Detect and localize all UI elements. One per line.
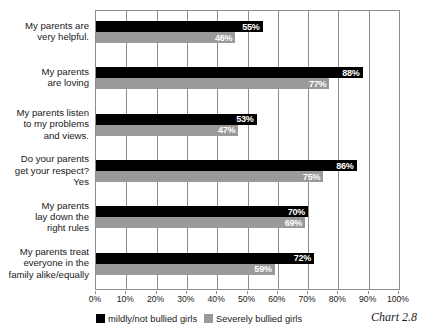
x-axis-tick-label: 10% xyxy=(117,294,134,304)
legend-swatch-icon xyxy=(96,314,105,323)
bar-severely-bullied: 46% xyxy=(96,32,235,43)
category-label: My parents treat everyone in the family … xyxy=(0,246,89,280)
legend-label: Severely bullied girls xyxy=(216,313,302,324)
x-axis-tick-label: 60% xyxy=(268,294,285,304)
bar-value-label: 59% xyxy=(254,265,271,274)
legend-item-mildly-not-bullied-girls: mildly/not bullied girls xyxy=(96,313,197,324)
bar-severely-bullied: 75% xyxy=(96,171,323,182)
legend-label: mildly/not bullied girls xyxy=(108,313,197,324)
category-label: My parents lay down the right rules xyxy=(0,200,89,234)
bar-mildly-not-bullied: 53% xyxy=(96,114,257,125)
plot-area: 55%46%88%77%53%47%86%75%70%69%72%59% xyxy=(95,10,400,290)
category-label: Do your parents get your respect? Yes xyxy=(0,153,89,187)
bar-severely-bullied: 47% xyxy=(96,125,238,136)
bar-row: 70%69% xyxy=(96,196,399,242)
chart-container: My parents are very helpful. My parents … xyxy=(0,0,425,331)
x-axis-tick-label: 50% xyxy=(238,294,255,304)
bar-mildly-not-bullied: 70% xyxy=(96,206,308,217)
x-axis-tick-label: 30% xyxy=(177,294,194,304)
bar-value-label: 86% xyxy=(336,161,353,170)
bar-value-label: 88% xyxy=(342,68,359,77)
bar-row: 72%59% xyxy=(96,243,399,289)
bar-value-label: 70% xyxy=(288,207,305,216)
bar-value-label: 47% xyxy=(218,126,235,135)
bar-value-label: 77% xyxy=(309,79,326,88)
bar-severely-bullied: 69% xyxy=(96,217,305,228)
bar-row: 88%77% xyxy=(96,57,399,103)
category-label: My parents listen to my problems and vie… xyxy=(0,107,89,141)
x-axis-tick-label: 80% xyxy=(329,294,346,304)
category-axis-labels: My parents are very helpful. My parents … xyxy=(0,10,92,290)
bar-row: 55%46% xyxy=(96,11,399,57)
bar-row: 53%47% xyxy=(96,104,399,150)
bar-severely-bullied: 77% xyxy=(96,78,329,89)
x-axis-tick-label: 40% xyxy=(208,294,225,304)
legend-item-severely-bullied-girls: Severely bullied girls xyxy=(204,313,302,324)
bar-value-label: 55% xyxy=(242,22,259,31)
bar-mildly-not-bullied: 86% xyxy=(96,160,357,171)
bar-row: 86%75% xyxy=(96,150,399,196)
legend: mildly/not bullied girls Severely bullie… xyxy=(96,311,302,325)
x-axis-tick-label: 70% xyxy=(298,294,315,304)
bar-value-label: 46% xyxy=(215,33,232,42)
bar-value-label: 75% xyxy=(303,172,320,181)
x-axis: 0%10%20%30%40%50%60%70%80%90%100% xyxy=(95,291,400,307)
bar-mildly-not-bullied: 88% xyxy=(96,67,363,78)
category-label: My parents are loving xyxy=(0,66,89,89)
bar-rows: 55%46%88%77%53%47%86%75%70%69%72%59% xyxy=(96,11,399,289)
bar-value-label: 53% xyxy=(236,115,253,124)
bar-value-label: 69% xyxy=(285,218,302,227)
chart-caption: Chart 2.8 xyxy=(371,310,417,325)
bar-mildly-not-bullied: 55% xyxy=(96,21,263,32)
x-axis-tick-label: 0% xyxy=(89,294,101,304)
bar-mildly-not-bullied: 72% xyxy=(96,253,314,264)
category-label: My parents are very helpful. xyxy=(0,20,89,43)
x-axis-tick-label: 90% xyxy=(359,294,376,304)
bar-severely-bullied: 59% xyxy=(96,264,275,275)
legend-swatch-icon xyxy=(204,314,213,323)
bar-value-label: 72% xyxy=(294,254,311,263)
x-axis-tick-label: 20% xyxy=(147,294,164,304)
x-axis-tick-label: 100% xyxy=(387,294,409,304)
